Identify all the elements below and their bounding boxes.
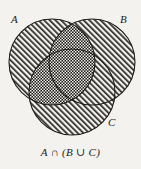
set-label-a: A [11, 14, 18, 25]
figure-caption: A ∩ (B ∪ C) [0, 146, 141, 159]
set-label-c: C [108, 117, 115, 128]
venn-diagram-figure: A B C A ∩ (B ∪ C) [0, 0, 141, 169]
set-label-b: B [120, 14, 127, 25]
